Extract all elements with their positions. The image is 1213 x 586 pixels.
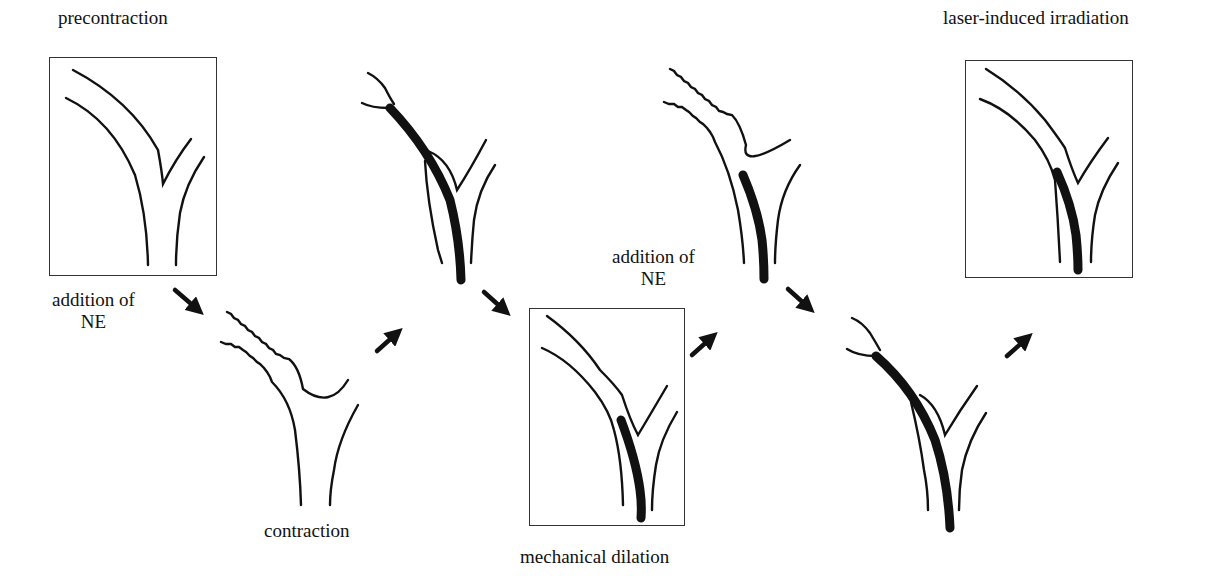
- vessel-precontraction: [66, 70, 204, 265]
- arrow-up-right-icon: [1007, 339, 1026, 356]
- vessel-balloon-inflated-1: [362, 73, 495, 280]
- vessel-contraction-with-balloon: [664, 69, 800, 279]
- vessel-balloon-inflated-2: [847, 318, 986, 528]
- arrow-up-right-icon: [377, 334, 396, 351]
- arrow-down-right-icon: [788, 289, 808, 307]
- vessel-laser-induced-irradiation: [980, 69, 1118, 270]
- arrow-up-right-icon: [692, 338, 711, 355]
- arrows: [175, 289, 1026, 356]
- arrow-down-right-icon: [175, 290, 197, 309]
- arrow-down-right-icon: [484, 292, 504, 310]
- vessel-contraction: [221, 312, 358, 505]
- diagram-drawing: [0, 0, 1213, 586]
- vessel-mechanical-dilation: [542, 316, 677, 518]
